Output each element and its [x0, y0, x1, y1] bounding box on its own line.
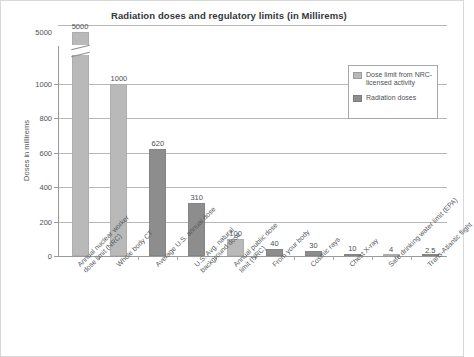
- legend-item-radiation-doses: Radiation doses: [353, 94, 433, 102]
- y-tick-label-0: 0: [48, 252, 52, 261]
- x-tick: [372, 256, 373, 260]
- x-tick: [294, 256, 295, 260]
- y-axis-line: [58, 46, 59, 256]
- x-tick: [411, 256, 412, 260]
- legend-label-line1: Dose limit: [366, 71, 397, 78]
- gridline-top: [58, 25, 447, 26]
- legend: Dose limit from NRC-licensed activity Ra…: [348, 65, 438, 119]
- y-tick: [54, 187, 59, 188]
- bar-value-label-9: 2.5: [425, 246, 435, 255]
- legend-item-dose-limit: Dose limit from NRC-licensed activity: [353, 71, 433, 88]
- y-tick: [54, 256, 59, 257]
- bar-2[interactable]: [149, 149, 166, 256]
- y-tick: [54, 118, 59, 119]
- bar-value-label-8: 4: [389, 245, 393, 254]
- legend-swatch-dose-limit: [353, 72, 362, 79]
- bar-0[interactable]: [72, 32, 89, 256]
- bar-value-label-7: 10: [348, 244, 356, 253]
- y-tick-label-200: 200: [39, 217, 52, 226]
- bar-value-label-2: 620: [152, 139, 165, 148]
- legend-swatch-radiation-doses: [353, 95, 362, 102]
- bar-value-label-6: 30: [309, 241, 317, 250]
- bar-value-label-0: 5000: [72, 22, 89, 31]
- x-tick: [333, 256, 334, 260]
- y-tick-label-800: 800: [39, 114, 52, 123]
- x-tick: [138, 256, 139, 260]
- y-tick-label-5000: 5000: [35, 28, 52, 37]
- y-tick-label-1000: 1000: [35, 80, 52, 89]
- y-tick: [54, 153, 59, 154]
- y-tick: [54, 222, 59, 223]
- x-tick: [177, 256, 178, 260]
- y-axis-label: Doses in millirems: [22, 81, 31, 221]
- legend-label-dose-limit: Dose limit from NRC-licensed activity: [366, 71, 433, 88]
- y-tick: [54, 84, 59, 85]
- y-tick-label-600: 600: [39, 148, 52, 157]
- bar-value-label-1: 1000: [111, 74, 128, 83]
- bar-value-label-3: 310: [190, 193, 203, 202]
- y-tick-label-400: 400: [39, 183, 52, 192]
- legend-label-line3: activity: [394, 79, 415, 86]
- legend-label-radiation-doses: Radiation doses: [366, 94, 416, 102]
- chart-title: Radiation doses and regulatory limits (i…: [111, 10, 451, 21]
